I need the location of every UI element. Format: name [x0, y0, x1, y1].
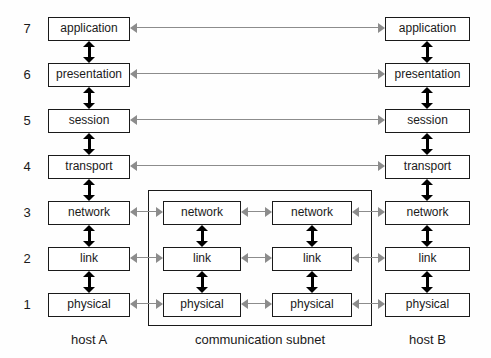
peer-link-transport: [130, 161, 385, 172]
arrow-head-right-icon: [378, 69, 385, 79]
arrow-head-up-icon: [421, 41, 433, 47]
peer-link-physical-subnet-b: [352, 299, 385, 310]
arrow-head-up-icon: [421, 87, 433, 93]
arrow-shaft: [135, 119, 380, 120]
arrow-head-up-icon: [83, 179, 95, 185]
arrow-head-up-icon: [83, 225, 95, 231]
host-a-arrow-7-6: [83, 41, 96, 63]
layer-number-3: 3: [16, 201, 38, 225]
arrow-head-right-icon: [378, 161, 385, 171]
caption-host-b: host B: [385, 332, 470, 347]
host-b-arrow-4-3: [421, 179, 434, 201]
host-a-arrow-4-3: [83, 179, 96, 201]
layer-number-1: 1: [16, 293, 38, 317]
host-a-application: application: [48, 17, 130, 41]
subnet-left-arrow-2-1: [196, 271, 209, 293]
osi-layer-diagram: 7654321 applicationpresentationsessiontr…: [0, 0, 491, 358]
arrow-head-left-icon: [130, 23, 137, 33]
arrow-head-left-icon: [241, 299, 248, 309]
arrow-head-up-icon: [196, 271, 208, 277]
arrow-head-right-icon: [378, 115, 385, 125]
host-b-transport: transport: [385, 155, 470, 179]
subnet-left-physical: physical: [163, 293, 241, 317]
arrow-shaft: [357, 211, 380, 212]
arrow-head-up-icon: [421, 271, 433, 277]
caption-subnet: communication subnet: [148, 332, 372, 347]
subnet-right-arrow-3-2: [306, 225, 319, 247]
host-a-arrow-5-4: [83, 133, 96, 155]
layer-number-7: 7: [16, 17, 38, 41]
arrow-shaft: [246, 211, 267, 212]
arrow-head-right-icon: [378, 299, 385, 309]
subnet-right-link: link: [272, 247, 352, 271]
arrow-head-left-icon: [130, 115, 137, 125]
host-a-physical: physical: [48, 293, 130, 317]
arrow-head-up-icon: [83, 133, 95, 139]
layer-number-6: 6: [16, 63, 38, 87]
arrow-head-left-icon: [352, 299, 359, 309]
arrow-head-left-icon: [352, 207, 359, 217]
arrow-shaft: [135, 27, 380, 28]
host-b-application: application: [385, 17, 470, 41]
peer-link-network-a-subnet: [130, 207, 163, 218]
arrow-shaft: [246, 303, 267, 304]
host-a-arrow-3-2: [83, 225, 96, 247]
arrow-shaft: [135, 303, 158, 304]
host-b-arrow-5-4: [421, 133, 434, 155]
arrow-head-up-icon: [83, 271, 95, 277]
host-a-link: link: [48, 247, 130, 271]
arrow-head-right-icon: [265, 253, 272, 263]
arrow-head-left-icon: [241, 207, 248, 217]
arrow-head-up-icon: [421, 133, 433, 139]
arrow-head-right-icon: [378, 253, 385, 263]
subnet-left-arrow-3-2: [196, 225, 209, 247]
arrow-head-left-icon: [130, 253, 137, 263]
arrow-head-up-icon: [421, 179, 433, 185]
peer-link-link-a-subnet: [130, 253, 163, 264]
host-b-arrow-3-2: [421, 225, 434, 247]
peer-link-application: [130, 23, 385, 34]
arrow-head-up-icon: [306, 271, 318, 277]
arrow-head-up-icon: [83, 41, 95, 47]
peer-link-session: [130, 115, 385, 126]
peer-link-presentation: [130, 69, 385, 80]
subnet-right-arrow-2-1: [306, 271, 319, 293]
arrow-head-left-icon: [352, 253, 359, 263]
host-b-link: link: [385, 247, 470, 271]
peer-link-network-subnet-b: [352, 207, 385, 218]
arrow-head-up-icon: [83, 87, 95, 93]
arrow-shaft: [135, 165, 380, 166]
arrow-head-right-icon: [156, 299, 163, 309]
arrow-shaft: [135, 211, 158, 212]
layer-number-5: 5: [16, 109, 38, 133]
peer-link-link-subnet-b: [352, 253, 385, 264]
arrow-head-up-icon: [196, 225, 208, 231]
subnet-right-physical: physical: [272, 293, 352, 317]
host-b-network: network: [385, 201, 470, 225]
arrow-head-left-icon: [241, 253, 248, 263]
caption-host-a: host A: [48, 332, 130, 347]
arrow-head-right-icon: [265, 299, 272, 309]
peer-link-physical-subnet: [241, 299, 272, 310]
layer-number-4: 4: [16, 155, 38, 179]
peer-link-physical-a-subnet: [130, 299, 163, 310]
host-a-arrow-2-1: [83, 271, 96, 293]
host-b-arrow-6-5: [421, 87, 434, 109]
peer-link-link-subnet: [241, 253, 272, 264]
arrow-head-right-icon: [265, 207, 272, 217]
arrow-head-right-icon: [156, 253, 163, 263]
arrow-head-left-icon: [130, 299, 137, 309]
subnet-left-network: network: [163, 201, 241, 225]
arrow-head-left-icon: [130, 161, 137, 171]
arrow-head-left-icon: [130, 69, 137, 79]
arrow-head-up-icon: [306, 225, 318, 231]
host-b-arrow-2-1: [421, 271, 434, 293]
host-a-transport: transport: [48, 155, 130, 179]
host-b-session: session: [385, 109, 470, 133]
arrow-shaft: [357, 303, 380, 304]
arrow-head-left-icon: [130, 207, 137, 217]
arrow-head-right-icon: [156, 207, 163, 217]
arrow-head-right-icon: [378, 207, 385, 217]
subnet-left-link: link: [163, 247, 241, 271]
peer-link-network-subnet: [241, 207, 272, 218]
